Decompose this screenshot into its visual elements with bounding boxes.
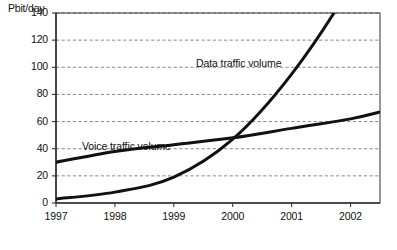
plot-frame <box>56 13 380 203</box>
plot-area <box>0 0 397 250</box>
series-line-data <box>56 0 380 199</box>
axis-ticks <box>52 13 351 207</box>
data-series <box>56 0 380 199</box>
series-label-data: Data traffic volume <box>196 57 281 69</box>
series-label-voice: Voice traffic volume <box>82 140 171 152</box>
traffic-volume-chart: Pbit/day 140 120 100 80 60 40 20 0 1997 … <box>0 0 397 250</box>
series-line-voice <box>56 112 380 162</box>
plot-border <box>56 13 380 203</box>
